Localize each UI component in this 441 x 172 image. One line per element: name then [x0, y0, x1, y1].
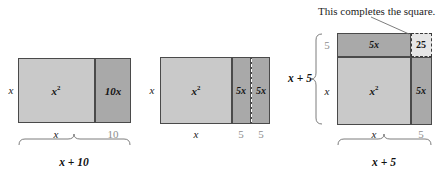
panel-3-label-twenty-five: 25	[416, 40, 426, 50]
panel-3-brace-label: x + 5	[372, 157, 396, 169]
panel-1-label-ten-x: 10x	[105, 86, 122, 97]
panel-2-bottom-label-5-right: 5	[258, 129, 264, 140]
panel-2-dashed-split	[251, 59, 252, 122]
panel-3-left-label-5: 5	[324, 40, 330, 51]
annotation-leader-line	[371, 17, 409, 34]
panel-2-label-x-squared: x2	[192, 86, 201, 97]
panel-1-left-label: x	[9, 85, 14, 96]
panel-1-brace-label: x + 10	[59, 157, 89, 169]
panel-3-label-x-squared: x2	[370, 86, 379, 97]
panel-3-label-five-x-right: 5x	[416, 86, 426, 96]
panel-2-label-five-x-left: 5x	[236, 86, 246, 96]
figure-canvas: x2 10x x x 10 x + 10 x2 5x 5x x x 5 5 5x…	[0, 0, 441, 172]
panel-2-bottom-label-x: x	[194, 129, 199, 140]
annotation-text: This completes the square.	[318, 6, 435, 17]
panel-3-left-brace-label: x + 5	[288, 73, 312, 85]
panel-3-label-five-x-top: 5x	[369, 40, 379, 50]
panel-3-left-label-x: x	[325, 86, 330, 97]
panel-2-label-five-x-right: 5x	[256, 86, 266, 96]
panel-2-left-label: x	[150, 85, 155, 96]
panel-3-left-brace	[311, 34, 322, 124]
panel-1-bottom-label-x: x	[54, 129, 59, 140]
panel-3-bottom-label-x: x	[372, 129, 377, 140]
panel-2-bottom-label-5-left: 5	[238, 129, 244, 140]
panel-3-bottom-label-5: 5	[418, 129, 424, 140]
panel-1-bottom-label-10: 10	[108, 129, 119, 140]
panel-1-label-x-squared: x2	[52, 86, 61, 97]
panel-3-bottom-brace	[338, 134, 431, 145]
